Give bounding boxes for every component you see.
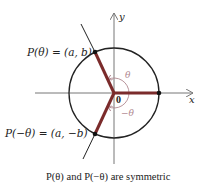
angle-neg-theta-label: −θ (121, 108, 135, 118)
radius-neg-theta (95, 93, 114, 134)
point-p-zero (157, 91, 162, 96)
x-axis-label: x (189, 94, 195, 105)
angle-theta-label: θ (125, 70, 131, 80)
y-axis-label: y (118, 11, 125, 22)
point-p-theta (93, 50, 98, 55)
unit-circle-diagram: P(θ) = (a, b) P(−θ) = (a, −b) θ −θ 0 x y… (0, 0, 208, 186)
point-theta-label: P(θ) = (a, b) (26, 46, 92, 58)
caption: P(θ) and P(−θ) are symmetric (46, 171, 171, 183)
point-neg-theta-label: P(−θ) = (a, −b) (4, 127, 88, 139)
diagram-canvas: P(θ) = (a, b) P(−θ) = (a, −b) θ −θ 0 x y… (0, 0, 208, 186)
radius-theta (95, 52, 114, 93)
origin-label: 0 (116, 94, 121, 105)
point-p-neg-theta (93, 132, 98, 137)
